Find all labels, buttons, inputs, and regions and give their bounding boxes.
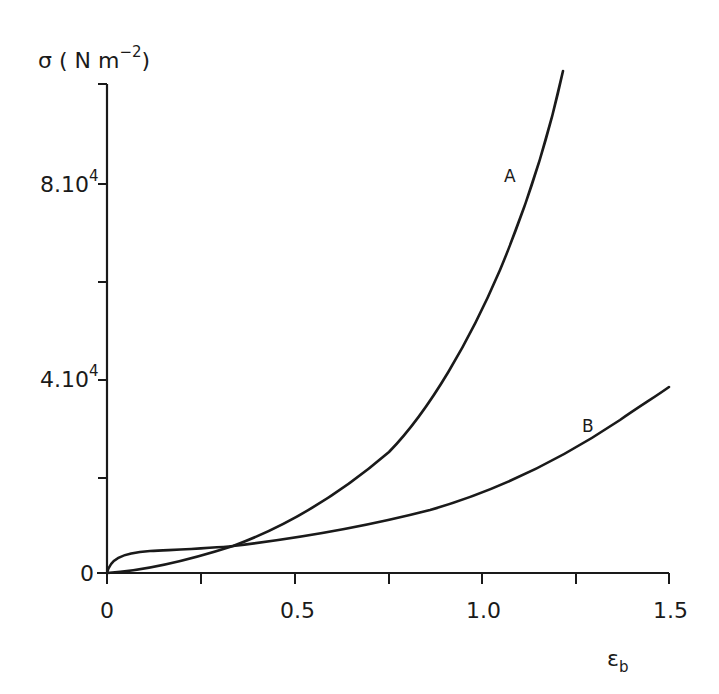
stress-strain-chart bbox=[0, 0, 719, 694]
y-ticks bbox=[98, 84, 107, 478]
y-tick-4e4-base: 4.10 bbox=[40, 367, 89, 392]
y-tick-8e4-base: 8.10 bbox=[40, 172, 89, 197]
y-tick-label-8e4: 8.104 bbox=[40, 174, 99, 196]
x-tick-label-0: 0 bbox=[100, 600, 114, 622]
x-axis-title-subscript: b bbox=[619, 658, 629, 676]
x-tick-label-0-5: 0.5 bbox=[280, 600, 315, 622]
x-axis-title-main: ε bbox=[607, 646, 619, 671]
x-ticks bbox=[107, 573, 669, 584]
x-tick-label-1-5: 1.5 bbox=[653, 600, 688, 622]
y-axis-title-exponent: −2 bbox=[119, 43, 141, 61]
curve-a-label: A bbox=[504, 168, 516, 185]
curve-b bbox=[107, 387, 669, 573]
y-tick-8e4-exp: 4 bbox=[89, 167, 99, 185]
y-tick-label-0: 0 bbox=[80, 563, 94, 585]
x-tick-label-1-0: 1.0 bbox=[466, 600, 501, 622]
curve-b-label: B bbox=[582, 418, 594, 435]
curve-a bbox=[107, 71, 563, 573]
y-axis-title-main: σ ( N m bbox=[38, 48, 119, 73]
y-axis-title: σ ( N m−2) bbox=[38, 50, 150, 72]
x-axis-title: εb bbox=[607, 648, 628, 670]
y-tick-label-4e4: 4.104 bbox=[40, 369, 99, 391]
y-axis-title-close: ) bbox=[142, 48, 151, 73]
y-tick-4e4-exp: 4 bbox=[89, 362, 99, 380]
